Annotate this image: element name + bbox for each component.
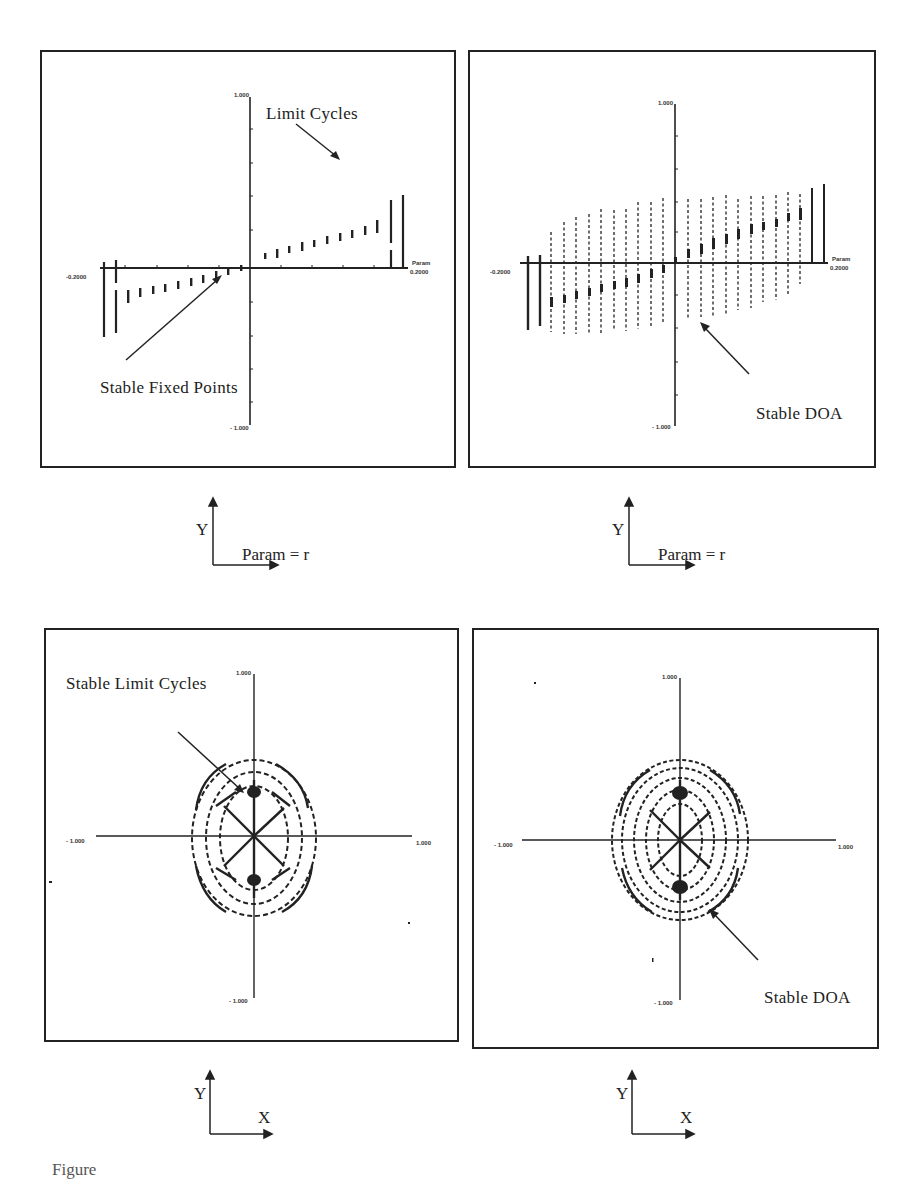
y-min-tick: - 1.000	[230, 425, 249, 431]
axes-arrow-icon	[608, 1068, 708, 1140]
y-min-tick: - 1.000	[652, 424, 671, 430]
axis-glyph-param-top-left: Y Param = r	[190, 495, 330, 570]
x-max-tick: 0.2000	[830, 265, 848, 271]
x-axis-label: Param = r	[658, 545, 725, 565]
x-max-tick: 1.000	[416, 840, 431, 846]
x-min-tick: - 1.000	[66, 838, 85, 844]
panel-bifurcation-fixed-points: 1.000 - 1.000 -0.2000 Param 0.2000 Limit…	[40, 50, 456, 468]
y-max-tick: 1.000	[662, 674, 677, 680]
annotation-stable-doa: Stable DOA	[764, 988, 851, 1008]
x-axis-label: X	[680, 1108, 692, 1128]
x-name-tick: Param	[832, 256, 850, 262]
y-axis-label: Y	[616, 1084, 628, 1104]
y-min-tick: - 1.000	[229, 998, 248, 1004]
panel-phase-doa: 1.000 - 1.000 - 1.000 1.000 Stable DOA	[472, 628, 879, 1049]
y-axis-label: Y	[194, 1084, 206, 1104]
annotation-stable-doa: Stable DOA	[756, 404, 843, 424]
y-min-tick: - 1.000	[654, 1000, 673, 1006]
x-max-tick: 0.2000	[410, 269, 428, 275]
axis-glyph-xy-bottom-right: Y X	[608, 1068, 708, 1140]
panel-phase-limit-cycles: 1.000 - 1.000 - 1.000 1.000 Stable Limit…	[44, 628, 459, 1042]
y-max-tick: 1.000	[658, 100, 673, 106]
y-max-tick: 1.000	[236, 670, 251, 676]
annotation-limit-cycles: Limit Cycles	[266, 104, 358, 124]
panel-bifurcation-doa: 1.000 - 1.000 -0.2000 Param 0.2000 Stabl…	[468, 50, 876, 468]
x-max-tick: 1.000	[838, 844, 853, 850]
x-min-tick: -0.2000	[490, 269, 510, 275]
axes-arrow-icon	[186, 1068, 286, 1140]
axis-glyph-param-top-right: Y Param = r	[606, 495, 746, 570]
x-axis-label: X	[258, 1108, 270, 1128]
x-min-tick: -0.2000	[66, 274, 86, 280]
bifurcation-plot	[42, 52, 458, 470]
y-axis-label: Y	[612, 520, 624, 540]
annotation-stable-fixed-points: Stable Fixed Points	[100, 378, 238, 398]
x-axis-label: Param = r	[242, 545, 309, 565]
figure-caption-partial: Figure	[52, 1160, 96, 1180]
annotation-stable-limit-cycles: Stable Limit Cycles	[66, 674, 207, 694]
y-max-tick: 1.000	[234, 92, 249, 98]
x-min-tick: - 1.000	[494, 842, 513, 848]
y-axis-label: Y	[196, 520, 208, 540]
axis-glyph-xy-bottom-left: Y X	[186, 1068, 286, 1140]
x-name-tick: Param	[412, 260, 430, 266]
